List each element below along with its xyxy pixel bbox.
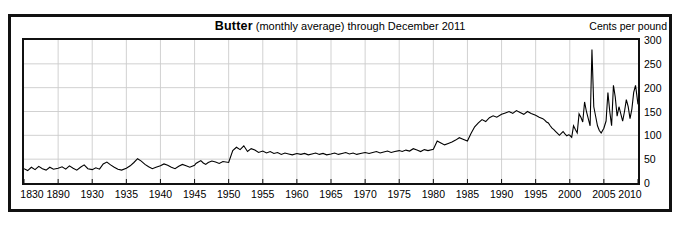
- x-axis-tick-label: 1830: [20, 188, 43, 201]
- y-axis-tick-label: 300: [644, 35, 662, 45]
- x-axis-tick-label: 1945: [183, 188, 206, 201]
- chart-title-bold: Butter: [215, 19, 253, 33]
- x-axis-tick-label: 1995: [524, 188, 547, 201]
- x-axis-tick-label: 1940: [149, 188, 172, 201]
- chart-title-rest: (monthly average) through December 2011: [253, 20, 466, 32]
- x-axis-tick-label: 1980: [422, 188, 445, 201]
- chart-figure: Butter (monthly average) through Decembe…: [0, 0, 686, 231]
- x-axis-tick-label: 1965: [319, 188, 342, 201]
- x-axis-tick-label: 1970: [353, 188, 376, 201]
- x-axis-tick-label: 1985: [456, 188, 479, 201]
- x-axis-tick-label: 1955: [251, 188, 274, 201]
- chart-header: Butter (monthly average) through Decembe…: [11, 17, 669, 38]
- x-axis-tick-label: 1950: [217, 188, 240, 201]
- x-axis-tick-label: 1990: [490, 188, 513, 201]
- chart-title: Butter (monthly average) through Decembe…: [11, 19, 669, 34]
- x-axis-tick-label: 1975: [388, 188, 411, 201]
- y-axis-tick-label: 250: [644, 59, 662, 69]
- x-axis-tick-label: 1935: [115, 188, 138, 201]
- y-axis-tick-label: 200: [644, 83, 662, 93]
- x-axis-tick-label: 1890: [46, 188, 69, 201]
- x-axis-tick-label: 1930: [81, 188, 104, 201]
- plot-inner: [24, 40, 638, 183]
- y-axis-labels: 050100150200250300: [644, 38, 674, 185]
- y-axis-tick-label: 100: [644, 130, 662, 140]
- y-axis-unit-label: Cents per pound: [589, 20, 667, 32]
- x-axis-tick-label: 2005: [592, 188, 615, 201]
- x-axis-tick-label: 1960: [285, 188, 308, 201]
- plot-area: [22, 38, 640, 185]
- x-axis-labels: 1830189019301935194019451950195519601965…: [0, 188, 686, 204]
- x-axis-tick-label: 2000: [558, 188, 581, 201]
- y-axis-tick-label: 150: [644, 107, 662, 117]
- butter-price-line-chart: [24, 40, 638, 183]
- y-axis-tick-label: 0: [644, 178, 650, 188]
- x-axis-tick-label: 2010: [618, 188, 641, 201]
- y-axis-tick-label: 50: [644, 154, 656, 164]
